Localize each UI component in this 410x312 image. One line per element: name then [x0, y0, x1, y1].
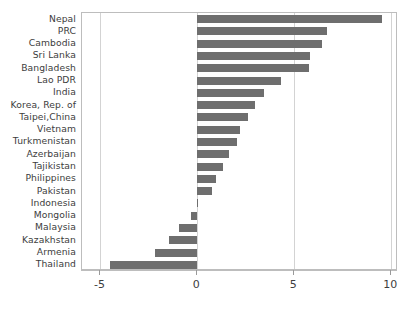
bar: [197, 27, 327, 35]
plot-area: [81, 12, 397, 270]
category-label: Korea, Rep. of: [0, 100, 76, 109]
category-label: Bangladesh: [0, 63, 76, 72]
x-tick-mark: [293, 270, 294, 275]
bar: [197, 52, 309, 60]
bar-chart: NepalPRCCambodiaSri LankaBangladeshLao P…: [0, 0, 410, 312]
bar: [191, 212, 198, 220]
category-label: Lao PDR: [0, 75, 76, 84]
bar: [197, 150, 229, 158]
category-label: Thailand: [0, 259, 76, 268]
category-label: Taipei,China: [0, 112, 76, 121]
bar: [169, 236, 197, 244]
bar: [197, 163, 222, 171]
category-label: Tajikistan: [0, 161, 76, 170]
bar: [197, 101, 254, 109]
x-tick-mark: [390, 270, 391, 275]
bar: [197, 199, 198, 207]
bar: [197, 77, 280, 85]
x-tick-label: -5: [94, 279, 105, 290]
category-label: Cambodia: [0, 38, 76, 47]
x-axis-line: [81, 270, 397, 271]
bar: [197, 89, 264, 97]
category-label: Nepal: [0, 14, 76, 23]
x-tick-mark: [99, 270, 100, 275]
category-label: Armenia: [0, 247, 76, 256]
bar: [197, 64, 308, 72]
category-label: Turkmenistan: [0, 136, 76, 145]
bar: [197, 187, 212, 195]
bar: [197, 126, 240, 134]
bar: [197, 40, 322, 48]
category-label: India: [0, 87, 76, 96]
category-label: Azerbaijan: [0, 149, 76, 158]
bar: [197, 175, 215, 183]
gridline-x--5: [100, 13, 101, 269]
bar: [197, 15, 382, 23]
x-tick-label: 10: [383, 279, 397, 290]
bar: [197, 138, 237, 146]
bar: [110, 261, 197, 269]
x-tick-label: 0: [193, 279, 200, 290]
category-label: Vietnam: [0, 124, 76, 133]
category-label: Malaysia: [0, 222, 76, 231]
x-tick-label: 5: [290, 279, 297, 290]
x-tick-mark: [196, 270, 197, 275]
category-label: Philippines: [0, 173, 76, 182]
bar: [179, 224, 197, 232]
category-label: Mongolia: [0, 210, 76, 219]
category-label: Kazakhstan: [0, 235, 76, 244]
category-label: Sri Lanka: [0, 50, 76, 59]
category-label: Pakistan: [0, 186, 76, 195]
category-label: Indonesia: [0, 198, 76, 207]
bar: [197, 113, 247, 121]
gridline-x-10: [391, 13, 392, 269]
category-label: PRC: [0, 26, 76, 35]
bar: [155, 249, 198, 257]
category-axis-labels: NepalPRCCambodiaSri LankaBangladeshLao P…: [0, 12, 76, 270]
